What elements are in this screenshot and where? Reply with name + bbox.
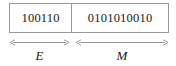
mantissa-bits: 0101010010: [88, 12, 153, 25]
exponent-cell: 100110: [10, 4, 72, 32]
bit-field-diagram: 100110 0101010010 E M: [0, 0, 176, 66]
mantissa-measure-arrow: [75, 38, 169, 47]
mantissa-label: M: [75, 48, 169, 64]
mantissa-cell: 0101010010: [72, 4, 168, 32]
exponent-measure-arrow: [9, 38, 70, 47]
exponent-label: E: [9, 48, 70, 64]
bit-field-box: 100110 0101010010: [9, 3, 169, 33]
exponent-bits: 100110: [21, 12, 59, 25]
